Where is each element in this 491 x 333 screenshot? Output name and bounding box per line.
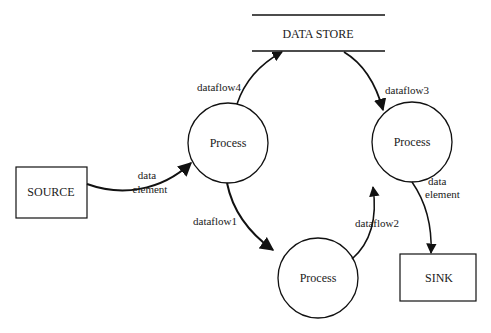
data-store[interactable]: DATA STORE [252, 15, 385, 51]
source-entity[interactable]: SOURCE [16, 167, 87, 218]
flow-dataflow1[interactable]: dataflow1 [193, 183, 273, 250]
flow-label-line1: data [138, 169, 156, 181]
flow-label: dataflow1 [193, 215, 237, 227]
sink-label: SINK [425, 271, 453, 285]
process-top-left[interactable]: Process [188, 103, 268, 183]
data-store-label: DATA STORE [282, 27, 353, 41]
process-label: Process [210, 136, 247, 150]
flow-process-to-sink[interactable]: data element [412, 175, 460, 253]
process-label: Process [394, 135, 431, 149]
process-top-right[interactable]: Process [372, 102, 452, 182]
flow-label-line1: data [428, 175, 446, 187]
flow-label-line2: element [133, 183, 168, 195]
flow-source-to-process[interactable]: data element [87, 163, 191, 195]
flow-dataflow3[interactable]: dataflow3 [344, 0, 429, 110]
flow-arrow [344, 52, 383, 110]
data-flow-diagram: DATA STORE Process Process Process SOURC… [0, 0, 491, 333]
flow-dataflow4[interactable]: dataflow4 [197, 52, 282, 104]
flow-label: dataflow4 [197, 81, 241, 93]
flow-label: dataflow3 [385, 84, 429, 96]
flow-label-line2: element [425, 188, 460, 200]
source-label: SOURCE [27, 185, 74, 199]
process-bottom[interactable]: Process [278, 238, 358, 318]
process-label: Process [300, 271, 337, 285]
sink-entity[interactable]: SINK [400, 254, 476, 301]
flow-label: dataflow2 [355, 217, 399, 229]
flow-dataflow2[interactable]: dataflow2 [352, 187, 399, 259]
flow-arrow [237, 52, 282, 104]
